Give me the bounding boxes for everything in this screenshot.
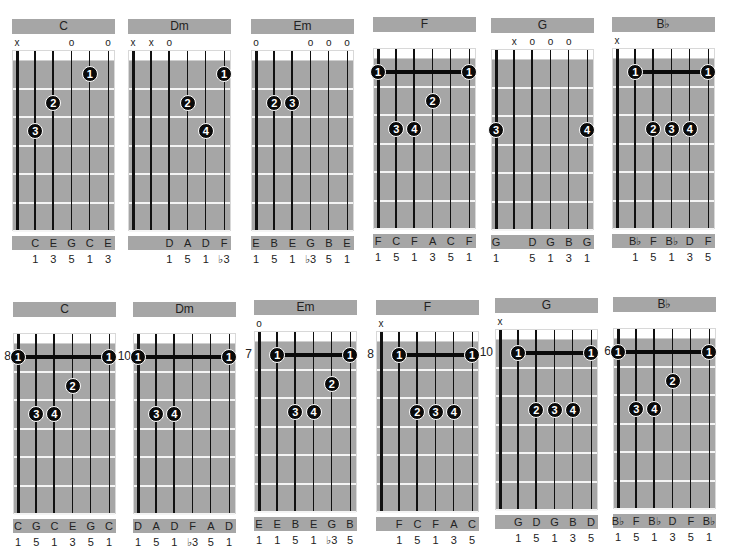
fret-line <box>614 480 715 482</box>
guitar-string <box>291 51 293 230</box>
fret-line <box>13 173 114 175</box>
note-name: C <box>27 236 43 250</box>
nut <box>377 332 478 342</box>
interval-label: 1 <box>220 536 238 548</box>
interval-label: 1 <box>578 252 596 264</box>
fret-line <box>613 228 714 230</box>
note-names-bar: EEBEGB <box>254 517 357 531</box>
guitar-string <box>653 329 655 508</box>
interval-label: 1 <box>9 536 27 548</box>
finger-dot: 3 <box>547 402 563 418</box>
guitar-string <box>258 332 261 511</box>
guitar-string <box>635 329 638 508</box>
fret-line <box>492 115 593 117</box>
fretboard: 34 <box>491 49 594 230</box>
interval-label: 5 <box>387 251 405 263</box>
fret-line <box>613 143 714 145</box>
fret-line <box>13 88 114 90</box>
interval-label: 5 <box>202 536 220 548</box>
fret-line <box>613 86 714 88</box>
fretboard: 1134 <box>133 333 236 514</box>
interval-label: 5 <box>82 536 100 548</box>
finger-dot: 1 <box>701 344 717 360</box>
note-name: C <box>101 519 117 533</box>
finger-dot: 2 <box>180 95 196 111</box>
fret-line <box>129 116 230 118</box>
finger-dot: 1 <box>610 344 626 360</box>
note-name: D <box>198 236 214 250</box>
interval-label: 5 <box>408 534 426 546</box>
guitar-string <box>52 51 54 230</box>
guitar-string <box>347 51 348 230</box>
interval-label: 1 <box>427 534 445 546</box>
guitar-string <box>192 334 194 513</box>
fret-line <box>492 172 593 174</box>
fret-line <box>377 426 478 428</box>
fretboard: 123 <box>12 50 115 231</box>
note-name: E <box>100 236 116 250</box>
fret-line <box>492 229 593 231</box>
guitar-string <box>671 49 673 228</box>
fretboard: 11234 <box>13 333 116 514</box>
note-names-bar: DADF <box>128 236 231 250</box>
note-name: G <box>543 235 559 249</box>
guitar-string <box>672 329 674 508</box>
interval-label: 1 <box>129 536 147 548</box>
fret-line <box>492 201 593 203</box>
interval-label: 1 <box>405 251 423 263</box>
note-name: E <box>269 517 285 531</box>
guitar-string <box>255 51 258 230</box>
fret-line <box>377 483 478 485</box>
note-name: B <box>342 517 358 531</box>
finger-dot: 1 <box>461 64 477 80</box>
fret-line <box>496 395 597 397</box>
interval-label: 5 <box>341 534 359 546</box>
guitar-string <box>550 50 552 229</box>
finger-dot: 3 <box>488 122 504 138</box>
note-names-bar: GDGBD <box>495 515 598 529</box>
note-name: F <box>185 519 201 533</box>
fret-line <box>614 394 715 396</box>
muted-string-marker: x <box>12 37 22 48</box>
guitar-string <box>432 49 434 228</box>
barre-line <box>18 355 109 359</box>
fret-line <box>13 202 114 204</box>
finger-dot: 1 <box>101 349 117 365</box>
fret-line <box>134 371 235 373</box>
note-name: B♭ <box>664 234 680 248</box>
fret-line <box>613 200 714 202</box>
fret-line <box>613 114 714 116</box>
note-name: D <box>583 515 599 529</box>
interval-label: 5 <box>463 534 481 546</box>
barre-line <box>618 350 709 354</box>
finger-dot: 1 <box>464 347 480 363</box>
fretboard: 124 <box>128 50 231 231</box>
note-name: F <box>391 517 407 531</box>
interval-label: 1 <box>247 253 265 265</box>
interval-label: 1 <box>546 532 564 544</box>
finger-dot: 1 <box>221 349 237 365</box>
interval-label: 1 <box>390 534 408 546</box>
finger-dot: 1 <box>216 66 232 82</box>
note-name: F <box>428 517 444 531</box>
interval-label: 5 <box>582 532 600 544</box>
nut <box>614 329 715 339</box>
interval-label: 3 <box>681 251 699 263</box>
fret-line <box>255 397 356 399</box>
fret-line <box>252 230 353 232</box>
interval-label: 1 <box>45 536 63 548</box>
fretboard: 11234 <box>254 331 357 512</box>
finger-dot: 2 <box>528 402 544 418</box>
note-name: D <box>166 519 182 533</box>
interval-label: 5 <box>63 253 81 265</box>
fret-line <box>129 145 230 147</box>
guitar-string <box>273 51 276 230</box>
interval-label: 5 <box>286 534 304 546</box>
fret-line <box>134 456 235 458</box>
interval-label: 5 <box>442 251 460 263</box>
guitar-string <box>495 50 498 229</box>
finger-dot: 3 <box>28 406 44 422</box>
guitar-string <box>568 50 569 229</box>
finger-dot: 3 <box>284 95 300 111</box>
guitar-string <box>132 51 135 230</box>
